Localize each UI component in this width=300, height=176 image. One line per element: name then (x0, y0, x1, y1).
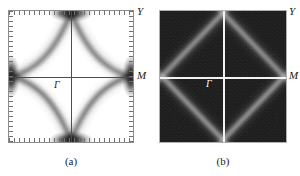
panel-a-label-M: M (137, 70, 146, 81)
figure: Y M Γ (a) (0, 0, 300, 176)
panel-b-label-gamma: Γ (206, 79, 212, 89)
panel-a-label-gamma: Γ (54, 80, 60, 90)
panel-a-label-Y: Y (137, 6, 143, 17)
panel-a-vertical-axis (71, 11, 72, 142)
panel-b-label-Y: Y (289, 6, 295, 17)
panel-b-caption: (b) (203, 155, 243, 167)
panel-b-label-M: M (289, 70, 298, 81)
panel-b (159, 10, 287, 143)
panel-b-vertical-axis (223, 11, 225, 142)
panel-a (8, 10, 134, 143)
panel-a-caption: (a) (51, 155, 91, 167)
